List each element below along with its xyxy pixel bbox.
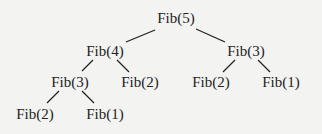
node-fib3-left: Fib(3) — [51, 75, 89, 90]
edge-fib3-fib1-leaf — [82, 91, 94, 103]
node-fib4: Fib(4) — [86, 44, 124, 59]
edge-fib3-fib1 — [258, 60, 270, 72]
node-fib2-mid: Fib(2) — [121, 75, 159, 90]
node-fib1-leaf: Fib(1) — [86, 107, 124, 122]
edge-fib3-fib2-leaf — [47, 91, 59, 103]
node-fib2-leaf: Fib(2) — [16, 107, 54, 122]
edge-fib4-fib2 — [117, 60, 129, 72]
node-fib2-right: Fib(2) — [192, 75, 230, 90]
node-fib5: Fib(5) — [157, 11, 195, 26]
node-fib3-right: Fib(3) — [227, 44, 265, 59]
edge-fib4-fib3 — [82, 60, 93, 71]
node-fib1-right: Fib(1) — [262, 75, 300, 90]
edge-fib5-fib4 — [126, 30, 155, 42]
edge-fib5-fib3 — [196, 29, 225, 42]
edge-fib3-fib2 — [223, 60, 235, 72]
